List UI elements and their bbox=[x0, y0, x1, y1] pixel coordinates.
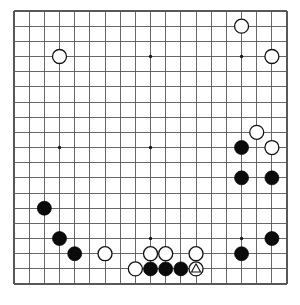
star-point bbox=[58, 146, 61, 149]
go-board-canvas[interactable] bbox=[0, 0, 300, 305]
diagram-page bbox=[0, 0, 300, 305]
star-point bbox=[149, 237, 152, 240]
black-stone[interactable] bbox=[68, 247, 82, 261]
white-stone[interactable] bbox=[265, 50, 279, 64]
white-stone[interactable] bbox=[189, 247, 203, 261]
black-stone[interactable] bbox=[53, 232, 67, 246]
black-stone[interactable] bbox=[37, 201, 51, 215]
black-stone[interactable] bbox=[235, 171, 249, 185]
star-point bbox=[149, 55, 152, 58]
white-stone[interactable] bbox=[98, 247, 112, 261]
white-stone[interactable] bbox=[159, 247, 173, 261]
white-stone[interactable] bbox=[53, 50, 67, 64]
star-point bbox=[240, 237, 243, 240]
black-stone[interactable] bbox=[144, 262, 158, 276]
black-stone[interactable] bbox=[265, 171, 279, 185]
white-stone[interactable] bbox=[250, 125, 264, 139]
black-stone[interactable] bbox=[265, 232, 279, 246]
black-stone[interactable] bbox=[159, 262, 173, 276]
black-stone[interactable] bbox=[235, 247, 249, 261]
black-stone[interactable] bbox=[235, 141, 249, 155]
white-stone[interactable] bbox=[235, 19, 249, 33]
go-board[interactable] bbox=[0, 0, 300, 305]
star-point bbox=[149, 146, 152, 149]
white-stone[interactable] bbox=[144, 247, 158, 261]
star-point bbox=[240, 55, 243, 58]
white-stone[interactable] bbox=[128, 262, 142, 276]
white-stone[interactable] bbox=[265, 141, 279, 155]
black-stone[interactable] bbox=[174, 262, 188, 276]
